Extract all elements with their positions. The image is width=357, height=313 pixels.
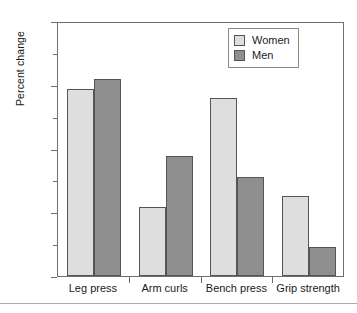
x-tick-label-grip-strength: Grip strength [272,282,344,294]
bar-women-grip-strength [282,196,309,276]
bar-chart-figure: Percent change 010203040 Leg pressArm cu… [0,0,357,313]
legend-entry-women: Women [234,33,290,48]
bar-women-arm-curls [139,207,166,276]
bar-women-bench-press [210,98,237,277]
y-axis-title: Percent change [14,0,28,106]
x-tick-label-leg-press: Leg press [57,282,129,294]
legend: WomenMen [228,28,299,68]
bottom-divider [0,303,357,304]
bar-women-leg-press [67,89,94,276]
plot-area [57,22,344,277]
bar-men-grip-strength [309,247,336,276]
legend-swatch-women [234,35,245,46]
x-tick-label-bench-press: Bench press [201,282,273,294]
bar-men-arm-curls [166,156,193,276]
x-tick-label-arm-curls: Arm curls [129,282,201,294]
bar-men-bench-press [237,177,264,276]
tick-mark [51,277,57,278]
legend-swatch-men [234,50,245,61]
legend-label-women: Women [252,35,290,46]
bar-men-leg-press [94,79,121,276]
legend-entry-men: Men [234,48,290,63]
legend-label-men: Men [252,50,273,61]
